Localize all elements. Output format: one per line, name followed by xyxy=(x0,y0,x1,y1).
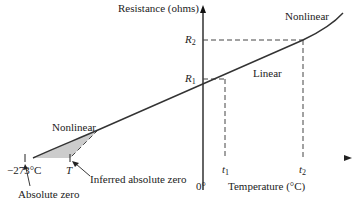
origin-label: 0° xyxy=(196,181,206,192)
x-axis-label: Temperature (°C) xyxy=(228,181,305,192)
label-linear: Linear xyxy=(253,68,282,79)
r1-label: R1 xyxy=(185,73,196,86)
inferred-T-label: T xyxy=(66,165,72,176)
label-lower-nonlinear: Nonlinear xyxy=(52,122,96,133)
t2-label: t2 xyxy=(299,164,306,177)
absolute-zero-value: −273°C xyxy=(7,165,41,176)
x-axis-arrow-icon xyxy=(344,155,352,161)
label-upper-nonlinear: Nonlinear xyxy=(285,11,329,22)
y-axis-arrow-icon xyxy=(200,5,206,13)
inferred-zero-pointer xyxy=(76,164,90,176)
y-axis-label: Resistance (ohms) xyxy=(118,3,199,14)
r2-label: R2 xyxy=(185,34,196,47)
t1-label: t1 xyxy=(222,164,229,177)
inferred-absolute-zero-label: Inferred absolute zero xyxy=(90,174,187,185)
absolute-zero-label: Absolute zero xyxy=(18,189,79,200)
